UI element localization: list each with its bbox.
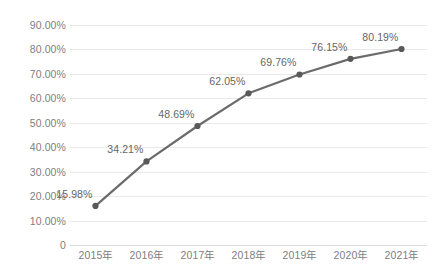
data-point-marker[interactable] <box>296 71 302 77</box>
plot-area: 15.98%34.21%48.69%62.05%69.76%76.15%80.1… <box>70 0 427 278</box>
x-axis-tick-label: 2018年 <box>232 250 266 261</box>
data-point-label: 34.21% <box>107 144 143 155</box>
series-polyline <box>96 49 402 206</box>
x-axis-tick-label: 2020年 <box>334 250 368 261</box>
y-axis-tick-label: 30.00% <box>0 166 66 177</box>
data-point-marker[interactable] <box>398 46 404 52</box>
data-point-marker[interactable] <box>92 203 98 209</box>
y-axis-tick-label: 0 <box>0 240 66 251</box>
data-point-label: 76.15% <box>311 42 347 53</box>
data-point-label: 48.69% <box>158 109 194 120</box>
x-axis-tick-label: 2019年 <box>283 250 317 261</box>
y-axis-tick-label: 80.00% <box>0 44 66 55</box>
data-point-marker[interactable] <box>245 90 251 96</box>
x-axis-tick-label: 2017年 <box>181 250 215 261</box>
data-point-label: 62.05% <box>209 76 245 87</box>
x-axis-tick-label: 2021年 <box>385 250 419 261</box>
y-axis: 90.00%80.00%70.00%60.00%50.00%40.00%30.0… <box>0 0 66 278</box>
line-chart: 90.00%80.00%70.00%60.00%50.00%40.00%30.0… <box>0 0 436 278</box>
y-axis-tick-label: 90.00% <box>0 20 66 31</box>
y-axis-tick-label: 60.00% <box>0 93 66 104</box>
data-point-marker[interactable] <box>143 158 149 164</box>
data-point-marker[interactable] <box>194 123 200 129</box>
y-axis-tick-label: 70.00% <box>0 69 66 80</box>
data-point-marker[interactable] <box>347 56 353 62</box>
data-point-label: 69.76% <box>260 57 296 68</box>
data-point-label: 80.19% <box>362 32 398 43</box>
x-axis: 2015年2016年2017年2018年2019年2020年2021年 <box>70 250 427 270</box>
y-axis-tick-label: 10.00% <box>0 215 66 226</box>
data-point-label: 15.98% <box>56 189 92 200</box>
y-axis-tick-label: 50.00% <box>0 118 66 129</box>
y-axis-tick-label: 40.00% <box>0 142 66 153</box>
x-axis-tick-label: 2015年 <box>79 250 113 261</box>
x-axis-tick-label: 2016年 <box>130 250 164 261</box>
